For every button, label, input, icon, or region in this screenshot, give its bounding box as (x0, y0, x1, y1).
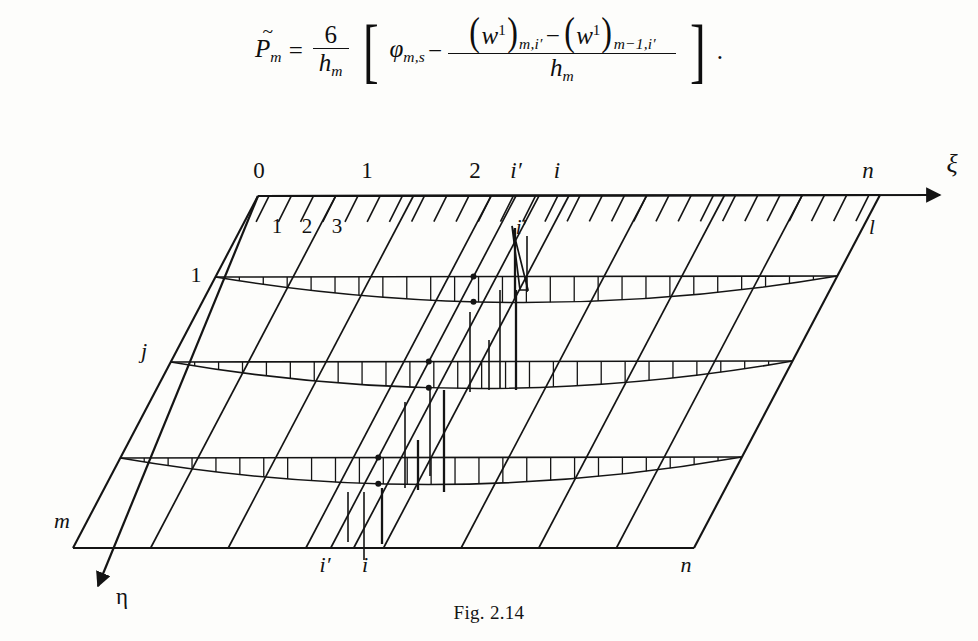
xi-axis-arrow (258, 195, 940, 196)
top-label-6: n (862, 158, 874, 183)
hatch-stroke (745, 195, 758, 221)
bracket-open: [ (363, 23, 379, 79)
prefactor-numerator: 6 (318, 21, 343, 48)
hatch-stroke (434, 196, 447, 222)
figure-caption: Fig. 2.14 (0, 602, 978, 624)
band-node-dot (471, 274, 477, 280)
inner-top-label-1: 1 (272, 214, 283, 238)
hatch-stroke (456, 196, 469, 222)
hatch-stroke (634, 195, 647, 221)
top-label-5: i (554, 158, 560, 183)
minus-operator: − (425, 38, 445, 63)
hatch-stroke (700, 195, 713, 221)
w-difference-fraction: (w1)m,i′−(w1)m−1,i′ hm (448, 16, 676, 85)
equation-row: ~Pm = 6 hm [ φm,s − (w1)m,i′−(w1)m−1,i′ … (255, 16, 723, 85)
band-node-dot (375, 481, 381, 487)
hatch-stroke (389, 196, 402, 222)
prefactor-fraction: 6 hm (313, 21, 349, 80)
top-label-4: i′ (510, 158, 522, 183)
left-label-2: j (138, 338, 147, 363)
xi-axis-label: ξ (946, 149, 958, 178)
hatch-stroke (656, 195, 669, 221)
load-bands (120, 274, 837, 487)
band-node-dot (426, 385, 432, 391)
lhs-subscript: m (270, 48, 281, 65)
prefactor-denominator: hm (313, 49, 349, 80)
left-label-1: 1 (191, 262, 202, 287)
hatch-stroke (834, 195, 847, 221)
bottom-label-1: i′ (320, 552, 332, 577)
bottom-label-3: n (681, 552, 692, 577)
hatch-stroke (478, 196, 491, 222)
mesh-column-line (151, 196, 336, 548)
band-node-dot (375, 455, 381, 461)
hatch-stroke (589, 195, 602, 221)
phi-term: φm,s (389, 36, 425, 65)
w-difference-numerator: (w1)m,i′−(w1)m−1,i′ (462, 16, 662, 53)
hatch-stroke (856, 195, 869, 221)
equation-block: ~Pm = 6 hm [ φm,s − (w1)m,i′−(w1)m−1,i′ … (0, 16, 978, 85)
parallelogram-mesh (73, 195, 880, 548)
top-label-2: 1 (361, 158, 373, 183)
inner-top-label-4: i′ (516, 215, 527, 239)
bracket-contents: φm,s − (w1)m,i′−(w1)m−1,i′ hm (389, 16, 679, 85)
hatch-stroke (256, 196, 269, 222)
figure-svg: ξ η 012i′in 123i′l 1jm i′in (0, 140, 978, 610)
top-label-3: 2 (469, 158, 481, 183)
band-node-dot (471, 299, 477, 305)
inner-top-label-3: 3 (332, 214, 343, 238)
figure-2-14: ξ η 012i′in 123i′l 1jm i′in (0, 140, 978, 610)
mesh-column-line (616, 195, 802, 548)
mesh-column-line (384, 196, 570, 549)
w-difference-denominator: hm (544, 54, 580, 85)
inner-top-labels: 123i′l (272, 214, 875, 239)
tilde-accent: ~ (263, 22, 274, 42)
hatch-stroke (767, 195, 780, 221)
hatch-stroke (723, 195, 736, 221)
equation-terminator: . (717, 38, 723, 63)
top-axis-labels: 012i′in (253, 158, 874, 183)
hatch-stroke (412, 196, 425, 222)
hatch-stroke (345, 196, 358, 222)
band-node-dot (426, 359, 432, 365)
hatch-stroke (612, 195, 625, 221)
mesh-column-line (306, 196, 491, 548)
top-label-1: 0 (253, 158, 265, 183)
bottom-axis-labels: i′in (320, 552, 692, 577)
hatch-stroke (567, 195, 580, 221)
inner-top-label-2: 2 (302, 214, 313, 238)
left-label-3: m (54, 508, 70, 533)
equals-sign: = (289, 38, 303, 63)
hatch-stroke (500, 196, 513, 222)
hatch-stroke (811, 195, 824, 221)
hatch-stroke (367, 196, 380, 222)
inner-top-label-5: l (869, 215, 875, 239)
hatch-stroke (789, 195, 802, 221)
hatch-stroke (678, 195, 691, 221)
lhs-symbol: ~Pm (255, 36, 282, 65)
hatch-stroke (545, 196, 558, 222)
scanned-page: ~Pm = 6 hm [ φm,s − (w1)m,i′−(w1)m−1,i′ … (0, 0, 978, 641)
bracket-close: ] (690, 23, 706, 79)
bottom-label-2: i (362, 552, 368, 577)
